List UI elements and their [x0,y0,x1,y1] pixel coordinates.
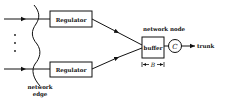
ellipsis-dots [14,34,16,52]
regulator-bottom: Regulator [50,62,92,77]
regulator-bottom-label: Regulator [56,67,87,74]
regulator-top: Regulator [50,11,92,27]
network-edge-label-line2: edge [33,91,48,98]
network-edge-curve [32,5,40,86]
buffer-size-dimension: B [142,61,164,68]
server-circle: C [169,40,182,53]
regulator-top-label: Regulator [56,17,87,24]
buffer-size-label: B [150,61,156,68]
network-node-label: network node [143,26,186,32]
flow-bottom-to-buffer [92,48,142,69]
network-edge-label-line1: network [27,84,52,90]
trunk-label: trunk [197,43,214,49]
buffer: buffer [142,37,164,58]
flow-top-to-buffer [92,19,142,45]
network-diagram: network edge Regulator Regulator network… [0,0,227,101]
buffer-label: buffer [144,45,163,51]
server-label: C [172,43,178,51]
